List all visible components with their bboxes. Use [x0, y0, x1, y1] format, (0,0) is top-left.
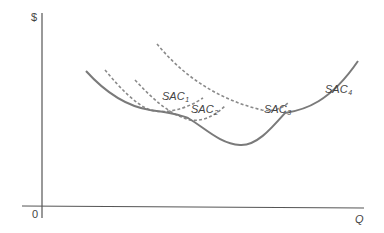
origin-label: 0	[32, 209, 38, 220]
sac3-prefix: SAC	[264, 103, 287, 115]
sac3-label: SAC3	[264, 104, 291, 116]
sac2-subscript: 2	[214, 109, 218, 116]
sac4-prefix: SAC	[325, 83, 348, 95]
sac1-label: SAC1	[162, 91, 189, 103]
sac4-subscript: 4	[348, 89, 352, 96]
sac2-label: SAC2	[191, 104, 218, 116]
sac4-label: SAC4	[325, 84, 352, 96]
envelope-curve	[86, 61, 358, 145]
sac3-subscript: 3	[287, 109, 291, 116]
sac1-subscript: 1	[185, 96, 189, 103]
x-axis	[22, 206, 364, 208]
sac2-prefix: SAC	[191, 103, 214, 115]
x-axis-label: Q	[355, 214, 364, 225]
y-axis-label: $	[31, 12, 37, 23]
cost-curves-chart	[0, 0, 384, 233]
sac1-prefix: SAC	[162, 90, 185, 102]
